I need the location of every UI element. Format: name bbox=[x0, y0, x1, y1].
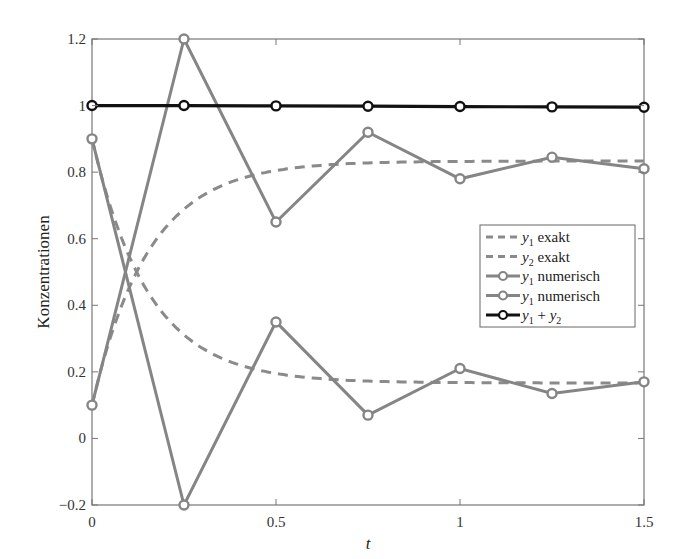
data-marker bbox=[180, 101, 189, 110]
y-tick-label: 0.8 bbox=[67, 164, 86, 180]
numeric-series-1 bbox=[88, 35, 649, 410]
chart: 00.511.5−0.200.20.40.60.811.2 t Konzentr… bbox=[0, 0, 676, 559]
x-tick-label: 0.5 bbox=[267, 514, 286, 530]
data-marker bbox=[364, 411, 373, 420]
legend-marker bbox=[499, 311, 507, 319]
sum-series bbox=[88, 101, 649, 112]
data-marker bbox=[364, 102, 373, 111]
y-tick-label: 0.4 bbox=[67, 297, 86, 313]
x-axis-label: t bbox=[366, 534, 372, 553]
data-marker bbox=[364, 128, 373, 137]
y-tick-label: 0 bbox=[79, 430, 87, 446]
y-tick-label: 1.2 bbox=[67, 31, 86, 47]
x-tick-label: 1.5 bbox=[635, 514, 654, 530]
data-marker bbox=[548, 102, 557, 111]
legend-marker bbox=[499, 272, 507, 280]
data-marker bbox=[88, 134, 97, 143]
data-marker bbox=[272, 101, 281, 110]
data-marker bbox=[456, 364, 465, 373]
data-marker bbox=[640, 103, 649, 112]
legend-marker bbox=[499, 292, 507, 300]
data-marker bbox=[272, 317, 281, 326]
data-marker bbox=[640, 377, 649, 386]
y-axis-label: Konzentrationen bbox=[34, 215, 53, 329]
data-marker bbox=[180, 501, 189, 510]
data-marker bbox=[548, 389, 557, 398]
series-line bbox=[92, 39, 644, 405]
data-marker bbox=[548, 153, 557, 162]
y-tick-label: 0.2 bbox=[67, 364, 86, 380]
y-tick-label: 1 bbox=[79, 98, 87, 114]
data-marker bbox=[456, 102, 465, 111]
x-tick-label: 1 bbox=[456, 514, 464, 530]
data-marker bbox=[88, 401, 97, 410]
legend: y1 exakty2 exakty1 numerischy1 numerisch… bbox=[480, 225, 635, 327]
y-tick-label: −0.2 bbox=[59, 497, 86, 513]
data-marker bbox=[180, 35, 189, 44]
data-marker bbox=[272, 218, 281, 227]
x-tick-label: 0 bbox=[88, 514, 96, 530]
y-tick-label: 0.6 bbox=[67, 231, 86, 247]
data-marker bbox=[456, 174, 465, 183]
